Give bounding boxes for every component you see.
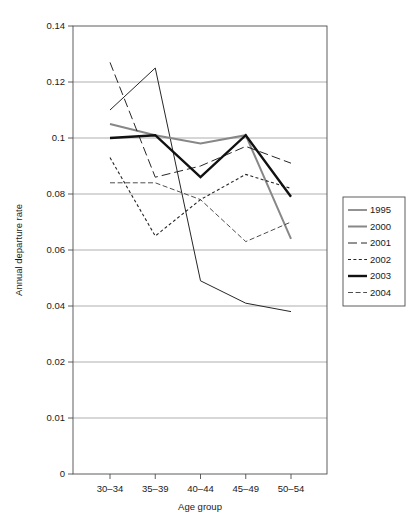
x-tick-label: 35–39 (142, 483, 168, 494)
y-tick-label: 0 (60, 468, 65, 479)
y-tick-label: 0.1 (52, 132, 65, 143)
x-tick-label: 40–44 (187, 483, 213, 494)
series-line-1995 (110, 68, 291, 312)
legend-label-2004[interactable]: 2004 (370, 287, 391, 298)
legend-label-2003[interactable]: 2003 (370, 270, 391, 281)
y-tick-label: 0.04 (47, 300, 66, 311)
x-tick-label: 30–34 (97, 483, 123, 494)
y-tick-label: 0.01 (47, 412, 66, 423)
y-tick-label: 0.02 (47, 356, 66, 367)
series-line-2002 (110, 158, 291, 236)
chart-canvas: 0.140.120.10.080.060.040.020.01030–3435–… (0, 0, 412, 529)
series-line-2004 (110, 183, 291, 242)
legend-label-2002[interactable]: 2002 (370, 254, 391, 265)
legend-label-1995[interactable]: 1995 (370, 204, 391, 215)
x-tick-label: 45–49 (233, 483, 259, 494)
x-axis-label: Age group (178, 501, 222, 512)
y-tick-label: 0.06 (47, 244, 66, 255)
y-tick-label: 0.08 (47, 188, 66, 199)
y-axis-label: Annual departure rate (13, 204, 24, 296)
series-line-2000 (110, 124, 291, 239)
x-tick-label: 50–54 (278, 483, 304, 494)
legend-label-2001[interactable]: 2001 (370, 237, 391, 248)
figure-container: 0.140.120.10.080.060.040.020.01030–3435–… (0, 0, 412, 529)
y-tick-label: 0.14 (47, 20, 66, 31)
y-tick-label: 0.12 (47, 76, 66, 87)
legend-label-2000[interactable]: 2000 (370, 221, 391, 232)
